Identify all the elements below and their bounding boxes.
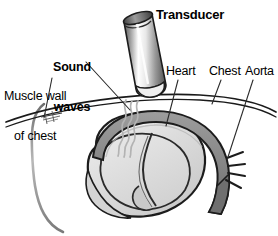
- label-muscle-wall-line1: Muscle wall: [4, 90, 66, 103]
- leader-sound-waves: [86, 62, 130, 110]
- leader-chest: [212, 80, 221, 104]
- transducer-probe: [122, 9, 166, 97]
- label-muscle-wall: Muscle wall of chest: [4, 64, 66, 169]
- label-chest: Chest: [209, 65, 241, 78]
- label-muscle-wall-line2: of chest: [4, 130, 66, 143]
- leader-aorta: [227, 80, 253, 160]
- label-transducer: Transducer: [156, 8, 224, 22]
- illustration-figure: Transducer Sound waves Muscle wall of ch…: [0, 0, 278, 236]
- label-heart: Heart: [166, 65, 196, 78]
- label-aorta: Aorta: [245, 65, 274, 78]
